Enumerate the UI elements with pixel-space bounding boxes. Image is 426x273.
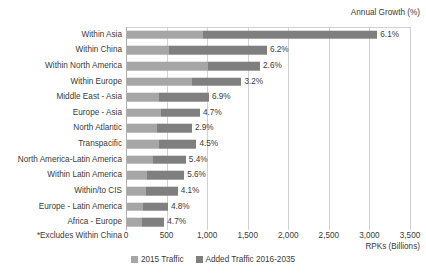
- category-label: Africa - Europe: [67, 218, 122, 226]
- bar-row: Africa - Europe4.7%: [126, 214, 410, 230]
- stacked-bar: [127, 62, 260, 71]
- stacked-bar: [127, 93, 209, 102]
- bar-row: Europe - Asia4.7%: [126, 105, 410, 121]
- legend-swatch-icon: [196, 256, 203, 263]
- x-tick-label: 3,500: [400, 231, 421, 240]
- x-tick-label: 2,000: [278, 231, 299, 240]
- bar-segment-2015-traffic: [127, 171, 147, 180]
- category-label: North Atlantic: [73, 124, 122, 132]
- category-label: Europe - Latin America: [39, 202, 122, 210]
- bar-segment-2015-traffic: [127, 31, 203, 40]
- growth-value-label: 5.4%: [186, 156, 208, 164]
- stacked-bar: [127, 109, 200, 118]
- bar-row: Within Latin America5.6%: [126, 168, 410, 184]
- x-tick-label: 0: [124, 231, 129, 240]
- legend-added-traffic[interactable]: Added Traffic 2016-2035: [196, 255, 296, 264]
- bar-segment-added-traffic: [208, 62, 260, 71]
- category-label: Within North America: [45, 62, 122, 70]
- gridline-3500: [410, 27, 411, 230]
- category-label: Within Europe: [71, 78, 122, 86]
- bar-segment-2015-traffic: [127, 77, 192, 86]
- x-tick-label: 3,000: [359, 231, 380, 240]
- stacked-bar: [127, 124, 192, 133]
- growth-value-label: 6.9%: [209, 93, 231, 101]
- x-tick-label: 1,500: [237, 231, 258, 240]
- legend-2015-traffic[interactable]: 2015 Traffic: [131, 255, 184, 264]
- stacked-bar: [127, 155, 186, 164]
- growth-value-label: 4.1%: [178, 187, 200, 195]
- growth-value-label: 3.2%: [241, 78, 263, 86]
- legend-swatch-icon: [131, 256, 138, 263]
- growth-value-label: 2.6%: [260, 62, 282, 70]
- bar-segment-added-traffic: [153, 155, 186, 164]
- bar-row: Within North America2.6%: [126, 58, 410, 74]
- bar-segment-2015-traffic: [127, 62, 208, 71]
- plot-area: Within Asia6.1%Within China6.2%Within No…: [126, 27, 410, 230]
- bar-row: North America-Latin America5.4%: [126, 152, 410, 168]
- x-tick-label: 2,500: [319, 231, 340, 240]
- growth-value-label: 4.7%: [164, 218, 186, 226]
- bar-segment-added-traffic: [146, 187, 178, 196]
- category-label: Within/to CIS: [74, 187, 122, 195]
- growth-value-label: 6.1%: [377, 31, 399, 39]
- stacked-bar: [127, 187, 178, 196]
- stacked-bar: [127, 218, 164, 227]
- bar-row: North Atlantic2.9%: [126, 121, 410, 137]
- bar-segment-added-traffic: [159, 140, 197, 149]
- bar-segment-added-traffic: [143, 202, 168, 211]
- category-label: Within Latin America: [47, 171, 122, 179]
- stacked-bar: [127, 202, 168, 211]
- category-label: Within Asia: [82, 31, 123, 39]
- stacked-bar: [127, 31, 377, 40]
- stacked-bar: [127, 171, 184, 180]
- category-label: North America-Latin America: [18, 156, 122, 164]
- bar-row: Within/to CIS4.1%: [126, 183, 410, 199]
- bar-segment-added-traffic: [157, 124, 192, 133]
- bar-row: Within Europe3.2%: [126, 74, 410, 90]
- x-tick-label: 500: [160, 231, 174, 240]
- legend-label: Added Traffic 2016-2035: [206, 255, 296, 264]
- bar-segment-2015-traffic: [127, 109, 161, 118]
- growth-chart: Annual Growth (%) Within Asia6.1%Within …: [0, 0, 426, 273]
- bar-segment-2015-traffic: [127, 202, 143, 211]
- annual-growth-annotation: Annual Growth (%): [351, 8, 420, 17]
- bar-segment-added-traffic: [169, 46, 267, 55]
- bar-segment-added-traffic: [142, 218, 164, 227]
- growth-value-label: 5.6%: [184, 171, 206, 179]
- category-label: Europe - Asia: [73, 109, 122, 117]
- bar-row: Middle East - Asia6.9%: [126, 89, 410, 105]
- growth-value-label: 4.8%: [168, 202, 190, 210]
- growth-value-label: 4.5%: [196, 140, 218, 148]
- bar-segment-2015-traffic: [127, 46, 169, 55]
- bar-segment-2015-traffic: [127, 218, 142, 227]
- growth-value-label: 4.7%: [200, 109, 222, 117]
- stacked-bar: [127, 46, 267, 55]
- category-label: Transpacific: [78, 140, 122, 148]
- bar-segment-2015-traffic: [127, 187, 146, 196]
- bar-row: Within Asia6.1%: [126, 27, 410, 43]
- stacked-bar: [127, 77, 241, 86]
- bar-row: Within China6.2%: [126, 43, 410, 59]
- category-label: Middle East - Asia: [56, 93, 122, 101]
- category-label: Within China: [76, 46, 122, 54]
- growth-value-label: 6.2%: [267, 46, 289, 54]
- bar-segment-added-traffic: [203, 31, 377, 40]
- bar-segment-2015-traffic: [127, 140, 159, 149]
- growth-value-label: 2.9%: [192, 124, 214, 132]
- bar-segment-added-traffic: [159, 93, 209, 102]
- bar-segment-added-traffic: [192, 77, 241, 86]
- x-axis-title: RPKs (Billions): [365, 242, 420, 251]
- bar-segment-2015-traffic: [127, 155, 153, 164]
- stacked-bar: [127, 140, 196, 149]
- legend-label: 2015 Traffic: [141, 255, 184, 264]
- chart-footnote: *Excludes Within China: [0, 231, 122, 240]
- bar-row: Transpacific4.5%: [126, 136, 410, 152]
- chart-legend: 2015 TrafficAdded Traffic 2016-2035: [0, 255, 426, 264]
- bar-segment-added-traffic: [147, 171, 184, 180]
- bar-segment-added-traffic: [161, 109, 200, 118]
- bar-row: Europe - Latin America4.8%: [126, 199, 410, 215]
- bar-segment-2015-traffic: [127, 93, 159, 102]
- bar-segment-2015-traffic: [127, 124, 157, 133]
- x-tick-label: 1,000: [197, 231, 218, 240]
